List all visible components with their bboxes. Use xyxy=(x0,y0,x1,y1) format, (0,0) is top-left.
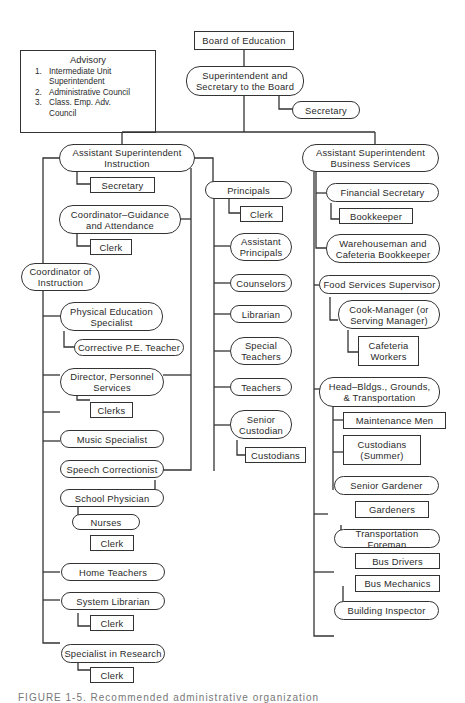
node-building-inspector: Building Inspector xyxy=(334,601,439,620)
node-gardeners: Gardeners xyxy=(355,501,429,518)
advisory-box: Advisory 1. Intermediate Unit Superinten… xyxy=(20,50,156,133)
node-board-of-education: Board of Education xyxy=(194,31,294,50)
advisory-title: Advisory xyxy=(21,55,155,66)
node-warehouseman: Warehouseman and Cafeteria Bookkeeper xyxy=(326,234,440,263)
node-nurses: Nurses xyxy=(72,514,140,530)
node-coordinator-instruction: Coordinator of Instruction xyxy=(21,263,100,291)
node-principals: Principals xyxy=(205,181,292,199)
node-system-librarian: System Librarian xyxy=(61,592,165,610)
node-speech-correctionist: Speech Correctionist xyxy=(60,460,164,478)
node-asst-supt-business: Assistant Superintendent Business Servic… xyxy=(302,144,439,172)
node-school-physician: School Physician xyxy=(60,489,164,507)
node-instruction-secretary: Secretary xyxy=(90,177,155,193)
node-home-teachers: Home Teachers xyxy=(61,563,165,581)
advisory-item-label: Intermediate Unit Superintendent xyxy=(49,67,111,88)
node-music-specialist: Music Specialist xyxy=(60,430,164,448)
figure-caption: FIGURE 1-5. Recommended administrative o… xyxy=(18,692,319,703)
node-assistant-principals: Assistant Principals xyxy=(230,233,292,261)
node-coordinator-guidance: Coordinator–Guidance and Attendance xyxy=(59,205,181,234)
node-bus-mechanics: Bus Mechanics xyxy=(355,575,440,592)
node-director-personnel: Director, Personnel Services xyxy=(60,368,164,396)
node-cafeteria-workers: Cafeteria Workers xyxy=(358,336,419,366)
node-corrective-pe-teacher: Corrective P.E. Teacher xyxy=(74,339,184,356)
node-senior-gardener: Senior Gardener xyxy=(334,476,439,495)
node-maintenance-men: Maintenance Men xyxy=(343,412,446,429)
node-financial-secretary: Financial Secretary xyxy=(326,183,439,202)
advisory-item: 3. Class. Emp. Adv. Council xyxy=(21,98,155,119)
node-counselors: Counselors xyxy=(230,274,292,292)
node-guidance-clerk: Clerk xyxy=(90,239,132,255)
node-food-services-supervisor: Food Services Supervisor xyxy=(319,275,440,294)
node-teachers: Teachers xyxy=(230,378,292,396)
advisory-item-number: 3. xyxy=(35,98,49,119)
node-cook-manager: Cook-Manager (or Serving Manager) xyxy=(338,300,440,329)
node-librarian-clerk: Clerk xyxy=(90,615,134,631)
node-research-clerk: Clerk xyxy=(90,667,134,683)
node-custodians-summer: Custodians (Summer) xyxy=(343,435,421,465)
advisory-item: 2. Administrative Council xyxy=(21,88,155,99)
node-special-teachers: Special Teachers xyxy=(230,337,292,365)
node-head-bldgs-grounds: Head–Bldgs., Grounds, & Transportation xyxy=(319,377,440,407)
node-superintendent-secretary: Secretary xyxy=(292,101,360,119)
advisory-item-number: 2. xyxy=(35,88,49,99)
node-senior-custodian: Senior Custodian xyxy=(230,410,292,439)
node-specialist-research: Specialist in Research xyxy=(61,644,165,663)
node-custodians: Custodians xyxy=(245,447,306,463)
node-superintendent: Superintendent and Secretary to the Boar… xyxy=(186,66,304,96)
node-bus-drivers: Bus Drivers xyxy=(355,553,440,569)
advisory-item-number: 1. xyxy=(35,67,49,88)
advisory-item-label: Administrative Council xyxy=(49,88,130,99)
advisory-item: 1. Intermediate Unit Superintendent xyxy=(21,67,155,88)
node-personnel-clerks: Clerks xyxy=(90,402,133,418)
advisory-item-label: Class. Emp. Adv. Council xyxy=(49,98,111,119)
node-asst-supt-instruction: Assistant Superintendent Instruction xyxy=(59,144,195,172)
node-transportation-foreman: Transportation Foreman xyxy=(334,529,440,548)
node-bookkeeper: Bookkeeper xyxy=(339,208,413,224)
node-nurses-clerk: Clerk xyxy=(90,535,134,551)
node-librarian: Librarian xyxy=(230,305,292,323)
node-principals-clerk: Clerk xyxy=(240,206,283,222)
node-pe-specialist: Physical Education Specialist xyxy=(60,302,163,331)
